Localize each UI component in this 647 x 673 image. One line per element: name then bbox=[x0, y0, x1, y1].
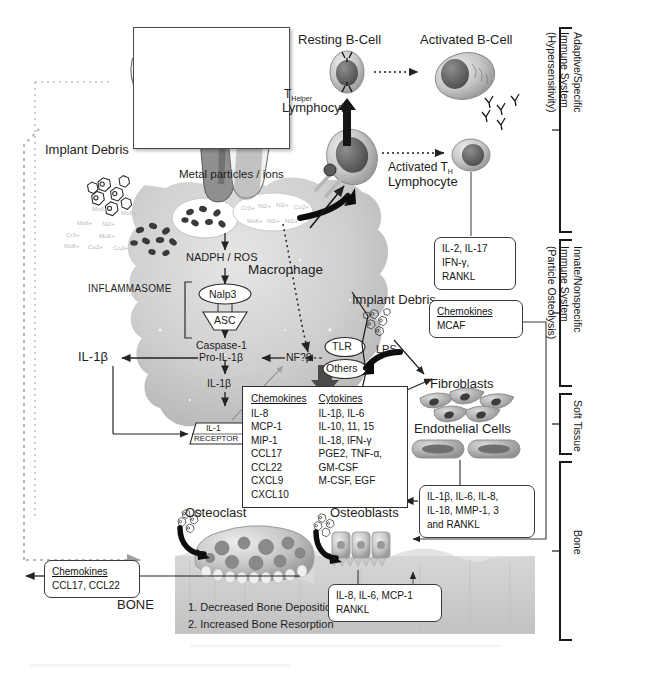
il1b-intracellular-label: IL-1β bbox=[207, 377, 231, 389]
mcaf-connector bbox=[522, 322, 546, 500]
implant-debris-label: Implant Debris bbox=[45, 142, 129, 157]
implant-debris-label-mid: Implant Debris bbox=[352, 292, 436, 307]
cytokine-2: IL-18, IFN-γ bbox=[319, 434, 382, 448]
mcaf-box: Chemokines MCAF bbox=[429, 300, 523, 338]
cytokine-5: M-CSF, EGF bbox=[319, 474, 382, 488]
th-cytokine-box: IL-2, IL-17 IFN-γ, RANKL bbox=[434, 237, 516, 290]
caspase1-label: Caspase-1 bbox=[196, 339, 247, 351]
figure-canvas: Implant Debris IL-1β Mo6+ Mo6+ Ni2+ Mo6+… bbox=[0, 0, 647, 673]
others-label: Others bbox=[326, 362, 358, 374]
debris-to-fibroblast-arrow bbox=[394, 340, 424, 374]
osteoblast-mediator-box: IL-8, IL-6, MCP-1 RANKL bbox=[328, 584, 442, 622]
bone-chemokine-value: CCL17, CCL22 bbox=[52, 579, 132, 593]
ion-label-8: Co2+ bbox=[113, 244, 128, 251]
t-helper-label-line2: Lymphocyte bbox=[282, 100, 352, 115]
ion-label-6: Co2+ bbox=[88, 243, 103, 250]
osteoblasts-label: Osteoblasts bbox=[330, 505, 399, 520]
vesicle-ion-6: Ni2+ bbox=[285, 217, 298, 224]
mcaf-value: MCAF bbox=[437, 319, 515, 333]
antibody-glyphs bbox=[482, 94, 519, 130]
nfkb-label: NF?β bbox=[286, 351, 312, 363]
pro-il1b-label: Pro-IL-1β bbox=[199, 351, 243, 363]
il1b-extracellular-label: IL-1β bbox=[78, 349, 108, 364]
chemokines-header: Chemokines bbox=[251, 392, 307, 406]
cytokine-3: PGE2, TNF-α, bbox=[319, 447, 382, 461]
st-mediator-1: IL-18, MMP-1, 3 bbox=[427, 504, 527, 518]
chemokine-5: CXCL9 bbox=[251, 474, 307, 488]
nadph-ros-label: NADPH / ROS bbox=[186, 251, 258, 264]
vesicle-ion-0: Cr3+ bbox=[241, 204, 255, 211]
activated-th-label-line2: Lymphocyte bbox=[388, 174, 458, 189]
lps-label: LPS bbox=[376, 343, 397, 356]
osteoclast-graphic bbox=[195, 526, 314, 584]
fibroblasts-graphic bbox=[420, 388, 514, 422]
resting-bcell-graphic bbox=[330, 51, 364, 93]
vesicle-ion-4: Mo6+ bbox=[247, 217, 263, 224]
cytokine-0: IL-1β, IL-6 bbox=[319, 407, 382, 421]
vesicle-ion-1: Ni2+ bbox=[258, 202, 271, 209]
nalp3-label: Nalp3 bbox=[209, 288, 236, 300]
st-mediator-2: and RANKL bbox=[427, 518, 527, 532]
activated-bcell-graphic bbox=[431, 47, 499, 104]
caption-smudge bbox=[30, 645, 500, 667]
bone-label: BONE bbox=[117, 597, 154, 612]
vesicle-ion-5: Ni2+ bbox=[267, 217, 280, 224]
chemokine-2: MIP-1 bbox=[251, 434, 307, 448]
bone-chemokine-box: Chemokines CCL17, CCL22 bbox=[44, 560, 140, 598]
ion-label-5: Mo6+ bbox=[99, 232, 115, 239]
fibroblasts-label: Fibroblasts bbox=[430, 376, 494, 391]
asc-label: ASC bbox=[214, 314, 236, 326]
softtissue-mediator-box: IL-1β, IL-6, IL-8, IL-18, MMP-1, 3 and R… bbox=[419, 485, 535, 538]
vesicle-ion-3: Co2+ bbox=[294, 203, 309, 210]
activated-th-graphic bbox=[452, 139, 490, 171]
hip-implant-inset-frame bbox=[133, 27, 290, 149]
th-cytokine-2: RANKL bbox=[442, 270, 508, 284]
cytokine-4: GM-CSF bbox=[319, 461, 382, 475]
endothelial-cells-graphic bbox=[412, 440, 520, 458]
endothelial-cells-label: Endothelial Cells bbox=[414, 421, 511, 436]
activated-bcell-label: Activated B-Cell bbox=[420, 32, 512, 47]
ion-label-1: Mo6+ bbox=[121, 209, 137, 216]
outcome-2: 2. Increased Bone Resorption bbox=[188, 618, 334, 631]
ion-label-0: Mo6+ bbox=[92, 205, 108, 212]
resting-bcell-label: Resting B-Cell bbox=[298, 32, 381, 47]
cytokines-header: Cytokines bbox=[319, 392, 382, 406]
bone-chemokine-header: Chemokines bbox=[52, 565, 132, 579]
st-mediator-0: IL-1β, IL-6, IL-8, bbox=[427, 490, 527, 504]
metal-particles-label: Metal particles / ions bbox=[179, 168, 284, 181]
ob-mediator-0: IL-8, IL-6, MCP-1 bbox=[336, 589, 434, 603]
th-cytokine-1: IFN-γ, bbox=[442, 256, 508, 270]
inflammasome-label: INFLAMMASOME bbox=[88, 283, 172, 295]
ion-label-2: Ni2+ bbox=[102, 220, 115, 227]
macrophage-label: Macrophage bbox=[248, 262, 323, 277]
ob-mediator-1: RANKL bbox=[336, 603, 434, 617]
vesicle-ion-2: Ni2+ bbox=[276, 201, 289, 208]
il1-receptor-label-bottom: RECEPTOR bbox=[194, 434, 238, 443]
th-cytokine-0: IL-2, IL-17 bbox=[442, 242, 508, 256]
tlr-label: TLR bbox=[332, 340, 352, 352]
mediator-box: Chemokines IL-8 MCP-1 MIP-1 CCL17 CCL22 … bbox=[242, 386, 408, 508]
chemokine-6: CXCL10 bbox=[251, 488, 307, 502]
osteoclast-label: Osteoclast bbox=[185, 505, 246, 520]
ion-label-4: Cr3+ bbox=[66, 231, 80, 238]
outcome-1: 1. Decreased Bone Deposition bbox=[188, 601, 337, 614]
cytokine-1: IL-10, 11, 15 bbox=[319, 420, 382, 434]
chemokine-4: CCL22 bbox=[251, 461, 307, 475]
il1-receptor-label-top: IL-1 bbox=[206, 423, 221, 433]
ion-label-7: Mo6+ bbox=[64, 242, 80, 249]
chemokine-1: MCP-1 bbox=[251, 420, 307, 434]
chemokine-3: CCL17 bbox=[251, 447, 307, 461]
chemokine-0: IL-8 bbox=[251, 407, 307, 421]
mcaf-header: Chemokines bbox=[437, 305, 515, 319]
ion-label-3: Mo6+ bbox=[77, 219, 93, 226]
phagosome-particles bbox=[172, 198, 238, 238]
